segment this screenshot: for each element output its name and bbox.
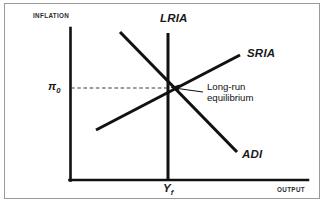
y-subscript: f [171,188,174,197]
adi-curve-label: ADI [242,148,262,161]
output-value-label: Yf [163,182,173,198]
economics-figure: INFLATION OUTPUT LRIA SRIA ADI π0 Yf Lon… [0,0,329,214]
x-axis-title: OUTPUT [277,186,305,193]
y-axis-title: INFLATION [33,12,69,19]
equilibrium-annotation: Long-runequilibrium [207,81,253,103]
lria-curve-label: LRIA [160,12,188,25]
pi-symbol: π [48,80,56,92]
pi-subscript: 0 [56,86,60,95]
sria-curve-label: SRIA [247,47,275,60]
equilibrium-annotation-line2: equilibrium [207,92,253,103]
inflation-value-label: π0 [48,80,60,96]
y-symbol: Y [163,182,171,194]
equilibrium-annotation-line1: Long-run [207,81,245,92]
